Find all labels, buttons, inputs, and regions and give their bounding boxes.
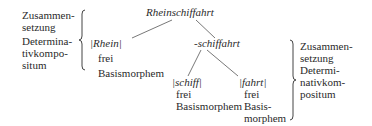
morpheme-class-cont: morphem [244, 112, 286, 124]
morpheme-class: Basismorphem [98, 67, 164, 79]
right-label-line: Determi- [300, 64, 340, 76]
morpheme-type: frei [244, 88, 259, 100]
left-label-line: Zusammen- [22, 9, 75, 21]
node-schiffahrt: -schiffahrt [194, 37, 240, 49]
root-node: Rheinschiffahrt [146, 6, 214, 18]
right-label-line: nativkom- [300, 76, 345, 88]
right-label-line: Zusammen- [300, 40, 353, 52]
morpheme-type: frei [98, 52, 113, 64]
morpheme-schiff: |schiff| [172, 76, 202, 88]
morpheme-class: Basismorphem [176, 100, 242, 112]
left-label-line: Determina- [22, 35, 72, 47]
left-label-line: tivkompo- [22, 47, 68, 59]
morphology-tree-diagram: Zusammen- setzung Determina- tivkompo- s… [0, 0, 372, 126]
morpheme-class: Basis- [244, 100, 272, 112]
morpheme-fahrt: |fahrt| [239, 76, 266, 88]
right-label-line: positum [300, 88, 335, 100]
right-label-line: setzung [300, 52, 334, 64]
left-label-line: situm [22, 59, 46, 71]
morpheme-type: frei [176, 88, 191, 100]
morpheme-rhein: |Rhein| [90, 37, 122, 49]
left-label-line: setzung [22, 21, 56, 33]
